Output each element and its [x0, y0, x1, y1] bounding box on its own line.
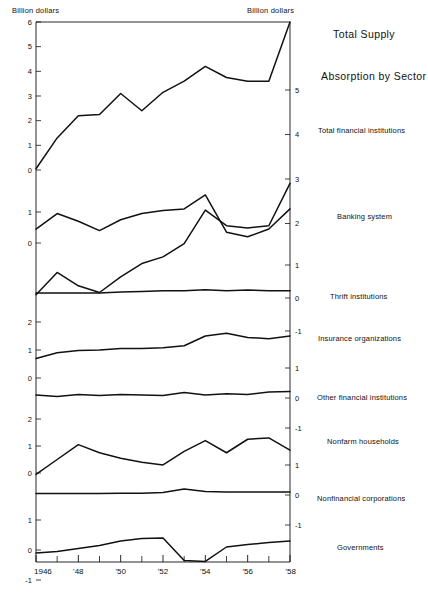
series-line-total-financial-institutions	[36, 183, 290, 294]
axis-tick-label: 0	[295, 394, 299, 403]
axis-tick-label: 1	[295, 461, 299, 470]
series-line-other-financial-institutions	[36, 391, 290, 396]
series-line-banking-system	[36, 195, 290, 237]
axis-tick-label: '48	[73, 567, 84, 576]
axis-tick-label: -1	[295, 327, 302, 336]
axis-tick-label: 3	[28, 92, 32, 101]
axis-tick-label: 1	[295, 364, 299, 373]
tick-labels-layer: 65432101021021010-1543210-110-110-11946'…	[25, 18, 301, 585]
axis-tick-label: 2	[28, 116, 32, 125]
axis-tick-label: 5	[295, 86, 299, 95]
axis-tick-label: -1	[295, 521, 302, 530]
series-line-insurance-organizations	[36, 333, 290, 358]
plot-area: 65432101021021010-1543210-110-110-11946'…	[0, 0, 428, 593]
axis-tick-label: 5	[28, 42, 32, 51]
chart-figure: Billion dollars Billion dollars Total Su…	[0, 0, 428, 593]
axis-tick-label: -1	[25, 576, 32, 585]
axis-tick-label: 1	[28, 208, 32, 217]
axis-tick-label: -1	[295, 424, 302, 433]
axis-tick-label: 0	[28, 166, 32, 175]
axis-tick-label: 0	[28, 374, 32, 383]
axis-tick-label: 2	[295, 219, 299, 228]
axis-tick-label: 0	[28, 469, 32, 478]
series-line-nonfarm-households	[36, 438, 290, 474]
axis-tick-label: 0	[28, 239, 32, 248]
axis-tick-label: 1	[28, 442, 32, 451]
axis-tick-label: 2	[28, 415, 32, 424]
series-line-total-supply	[36, 22, 290, 169]
series-line-thrift-institutions	[36, 290, 290, 293]
axis-tick-label: 6	[28, 18, 32, 27]
axis-tick-label: 0	[295, 294, 299, 303]
axis-tick-label: 4	[28, 67, 32, 76]
axis-tick-label: '58	[286, 567, 297, 576]
axis-tick-label: 1	[28, 516, 32, 525]
curves-layer	[36, 22, 290, 561]
axis-tick-label: '50	[115, 567, 126, 576]
axis-tick-label: 1	[28, 141, 32, 150]
axis-tick-label: 2	[28, 318, 32, 327]
axis-tick-label: 1	[295, 261, 299, 270]
series-line-nonfinancial-corporations	[36, 489, 290, 494]
axis-tick-label: '52	[158, 567, 169, 576]
axis-tick-label: 3	[295, 175, 299, 184]
axis-tick-label: '54	[200, 567, 211, 576]
axis-tick-label: 0	[295, 491, 299, 500]
axis-tick-label: 1	[28, 346, 32, 355]
axis-tick-label: 0	[28, 546, 32, 555]
axes-layer	[36, 22, 290, 580]
axis-tick-label: 1946	[34, 567, 52, 576]
axis-tick-label: 4	[295, 130, 299, 139]
axis-tick-label: '56	[242, 567, 253, 576]
